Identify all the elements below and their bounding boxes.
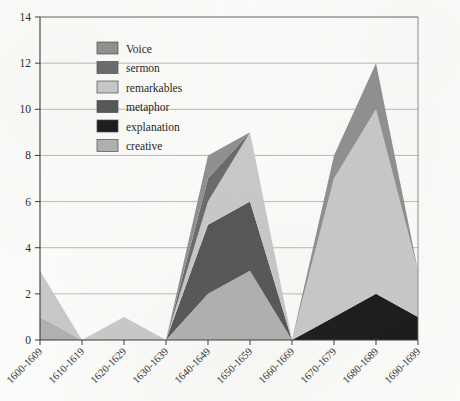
y-tick-label-10: 10 xyxy=(20,103,32,115)
x-tick-label-1660-1669: 1660-1669 xyxy=(256,346,296,386)
x-tick-label-1680-1689: 1680-1689 xyxy=(340,346,380,386)
x-tick-label-1650-1659: 1650-1659 xyxy=(214,346,254,386)
legend-label-sermon: sermon xyxy=(126,62,160,74)
y-tick-label-12: 12 xyxy=(20,57,32,69)
legend-swatch-explanation xyxy=(97,120,118,132)
x-tick-label-1610-1619: 1610-1619 xyxy=(46,346,86,386)
legend-swatch-creative xyxy=(97,140,118,152)
x-tick-label-1670-1679: 1670-1679 xyxy=(298,346,338,386)
chart-container: 02468101214 1600-16091610-16191620-16291… xyxy=(0,0,460,401)
legend-swatch-metaphor xyxy=(97,101,118,113)
x-tick-label-1690-1699: 1690-1699 xyxy=(382,346,422,386)
legend-swatch-voice xyxy=(97,42,118,54)
y-tick-label-0: 0 xyxy=(25,334,31,346)
y-axis-ticks: 02468101214 xyxy=(20,11,41,346)
x-tick-label-1640-1649: 1640-1649 xyxy=(172,346,212,386)
y-tick-label-8: 8 xyxy=(25,149,31,161)
x-axis-ticks: 1600-16091610-16191620-16291630-16391640… xyxy=(4,340,422,386)
legend-swatch-sermon xyxy=(97,62,118,74)
stacked-area-chart: 02468101214 1600-16091610-16191620-16291… xyxy=(0,0,460,401)
legend-label-remarkables: remarkables xyxy=(126,82,183,94)
legend-label-metaphor: metaphor xyxy=(126,101,170,114)
x-tick-label-1600-1609: 1600-1609 xyxy=(4,346,44,386)
x-tick-label-1630-1639: 1630-1639 xyxy=(130,346,170,386)
x-tick-label-1620-1629: 1620-1629 xyxy=(88,346,128,386)
legend-swatch-remarkables xyxy=(97,81,118,93)
legend-label-creative: creative xyxy=(126,140,162,152)
y-tick-label-2: 2 xyxy=(25,288,31,300)
legend-label-voice: Voice xyxy=(126,43,152,55)
y-tick-label-4: 4 xyxy=(25,242,31,254)
y-tick-label-6: 6 xyxy=(25,196,31,208)
legend-label-explanation: explanation xyxy=(126,121,180,134)
y-tick-label-14: 14 xyxy=(20,11,32,23)
